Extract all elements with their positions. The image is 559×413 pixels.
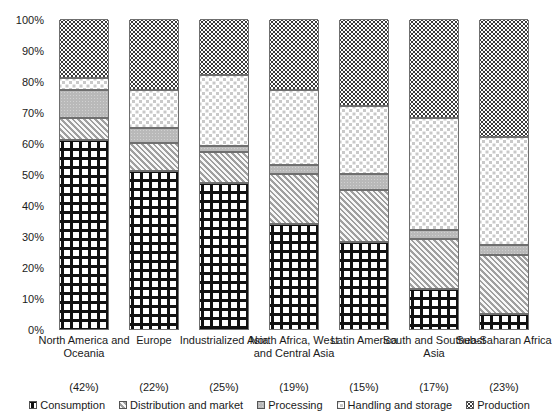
bar-segment [480,314,528,330]
bar-segment [480,255,528,314]
bar-column [339,20,389,330]
stacked-bar [339,20,389,330]
bar-segment [200,183,248,329]
bar-segment [340,19,388,106]
bar-segment [410,239,458,289]
legend-label: Distribution and market [130,399,243,411]
bar-segment [340,190,388,243]
legend-item[interactable]: Production [466,399,530,411]
bar-segment [60,19,108,78]
bar-segment [340,106,388,174]
legend-item[interactable]: Handling and storage [337,399,453,411]
category-percent: (23%) [452,381,556,393]
bar-segment [340,174,388,190]
bar-segment [270,19,318,90]
bar-segment [130,143,178,171]
y-axis-tick: 20% [22,263,44,273]
y-axis-tick: 40% [22,201,44,211]
bar-segment [270,174,318,224]
legend-item[interactable]: Processing [257,399,322,411]
bar-column [199,20,249,330]
legend-swatch-icon [466,401,474,409]
y-axis-tick: 90% [22,46,44,56]
bar-segment [60,78,108,90]
bar-segment [130,90,178,127]
bar-column [409,20,459,330]
bar-segment [60,118,108,140]
y-axis: 100%90%80%70%60%50%40%30%20%10%0% [0,0,50,330]
stacked-bar-chart: 100%90%80%70%60%50%40%30%20%10%0% North … [0,0,559,413]
bar-segment [480,137,528,246]
legend-label: Handling and storage [348,399,453,411]
y-axis-tick: 30% [22,232,44,242]
bar-segment [270,224,318,329]
legend-label: Consumption [40,399,105,411]
bar-segment [200,75,248,146]
bar-segment [200,152,248,183]
bar-segment [410,19,458,118]
legend-swatch-icon [29,401,37,409]
y-axis-tick: 60% [22,139,44,149]
bar-column [59,20,109,330]
bar-segment [480,19,528,137]
legend-item[interactable]: Distribution and market [119,399,243,411]
y-axis-tick: 80% [22,77,44,87]
bar-segment [130,171,178,329]
bar-segment [410,289,458,329]
stacked-bar [129,20,179,330]
bar-segment [130,19,178,90]
bar-segment [60,140,108,329]
bar-column [269,20,319,330]
bar-column [479,20,529,330]
stacked-bar [199,20,249,330]
chart-legend: ConsumptionDistribution and marketProces… [0,396,559,413]
y-axis-tick: 100% [16,15,44,25]
bar-segment [270,90,318,164]
legend-item[interactable]: Consumption [29,399,105,411]
category-label: Sub-Saharan Africa [452,334,556,347]
stacked-bar [269,20,319,330]
bar-segment [60,90,108,118]
legend-label: Production [477,399,530,411]
legend-swatch-icon [119,401,127,409]
stacked-bar [59,20,109,330]
bar-segment [200,19,248,75]
bar-segment [200,146,248,152]
bar-segment [340,242,388,329]
y-axis-tick: 50% [22,170,44,180]
y-axis-tick: 10% [22,294,44,304]
legend-label: Processing [268,399,322,411]
stacked-bar [409,20,459,330]
legend-swatch-icon [257,401,265,409]
bar-segment [410,230,458,239]
bar-segment [480,245,528,254]
plot-area [52,20,547,330]
stacked-bar [479,20,529,330]
bar-segment [270,165,318,174]
bar-column [129,20,179,330]
y-axis-tick: 70% [22,108,44,118]
bar-segment [130,128,178,144]
legend-swatch-icon [337,401,345,409]
bar-segment [410,118,458,230]
